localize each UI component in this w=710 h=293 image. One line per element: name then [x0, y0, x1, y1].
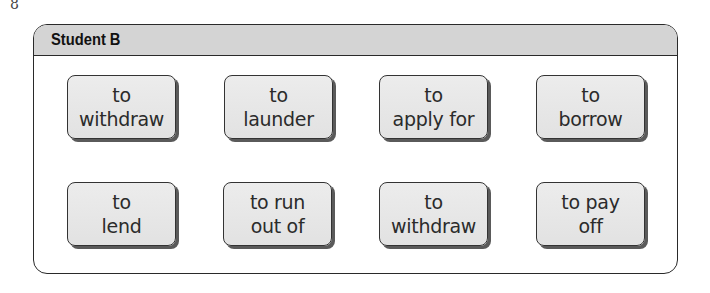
- card-line-1: to: [424, 83, 442, 107]
- card-line-1: to: [424, 190, 442, 214]
- card-line-1: to: [112, 190, 130, 214]
- student-b-panel: Student B to withdraw to launder to appl…: [33, 24, 678, 274]
- card-line-2: out of: [251, 214, 305, 238]
- card-line-2: borrow: [559, 107, 623, 131]
- panel-header: Student B: [34, 25, 677, 56]
- card-line-2: launder: [243, 107, 313, 131]
- word-card-to-launder[interactable]: to launder: [224, 75, 333, 139]
- card-line-2: off: [578, 214, 602, 238]
- word-card-to-borrow[interactable]: to borrow: [536, 75, 645, 139]
- word-card-to-apply-for[interactable]: to apply for: [379, 75, 488, 139]
- card-line-2: withdraw: [391, 214, 476, 238]
- word-card-to-lend[interactable]: to lend: [67, 182, 176, 246]
- card-line-2: lend: [102, 214, 142, 238]
- card-grid: to withdraw to launder to apply for to b…: [34, 56, 677, 273]
- word-card-to-pay-off[interactable]: to pay off: [536, 182, 645, 246]
- page-mark: 8: [10, 0, 19, 12]
- card-line-1: to: [112, 83, 130, 107]
- card-line-2: apply for: [393, 107, 475, 131]
- card-line-2: withdraw: [79, 107, 164, 131]
- word-card-to-withdraw[interactable]: to withdraw: [67, 75, 176, 139]
- card-line-1: to pay: [561, 190, 619, 214]
- word-card-to-withdraw-2[interactable]: to withdraw: [379, 182, 488, 246]
- word-card-to-run-out-of[interactable]: to run out of: [223, 182, 332, 246]
- card-line-1: to: [269, 83, 287, 107]
- panel-title: Student B: [51, 31, 121, 49]
- card-line-1: to run: [250, 190, 305, 214]
- card-line-1: to: [581, 83, 599, 107]
